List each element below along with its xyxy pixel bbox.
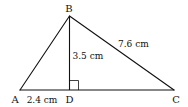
vertex-label-a: A [10, 94, 19, 105]
measurement-bd: 3.5 cm [73, 51, 104, 61]
measurement-bc: 7.6 cm [118, 39, 149, 49]
side-ab [20, 16, 70, 90]
triangle-diagram: B A D C 2.4 cm 3.5 cm 7.6 cm [0, 0, 188, 107]
vertex-label-b: B [65, 3, 72, 14]
vertex-label-c: C [172, 94, 180, 105]
measurement-ad: 2.4 cm [27, 95, 58, 105]
vertex-label-d: D [65, 94, 73, 105]
right-angle-marker [70, 81, 79, 91]
